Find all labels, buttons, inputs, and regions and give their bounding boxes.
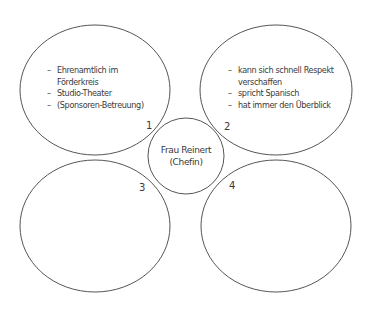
bubble-3-ellipse [20,160,170,292]
list-item: verschaffen [228,77,368,89]
bubble-4-number: 4 [229,180,235,191]
list-item: –spricht Spanisch [228,88,368,100]
list-item: –Studio-Theater [47,88,177,100]
list-item: –hat immer den Überblick [228,100,368,112]
bubble-3-number: 3 [139,182,145,193]
bubble-2-text: –kann sich schnell Respekt verschaffen –… [228,65,368,111]
bubble-1-list: –Ehrenamtlich im Förderkreis –Studio-The… [47,65,177,111]
list-item: –kann sich schnell Respekt [228,65,368,77]
center-role: (Chefin) [148,156,224,168]
bubble-1-number: 1 [146,120,152,131]
list-item: –(Sponsoren-Betreuung) [47,100,177,112]
bubble-2-list: –kann sich schnell Respekt verschaffen –… [228,65,368,111]
bubble-4-ellipse [201,160,351,292]
center-label: Frau Reinert (Chefin) [148,144,224,168]
bubble-2-number: 2 [224,121,230,132]
list-item: Förderkreis [47,77,177,89]
list-item: –Ehrenamtlich im [47,65,177,77]
center-name: Frau Reinert [148,144,224,156]
bubble-1-text: –Ehrenamtlich im Förderkreis –Studio-The… [47,65,177,111]
